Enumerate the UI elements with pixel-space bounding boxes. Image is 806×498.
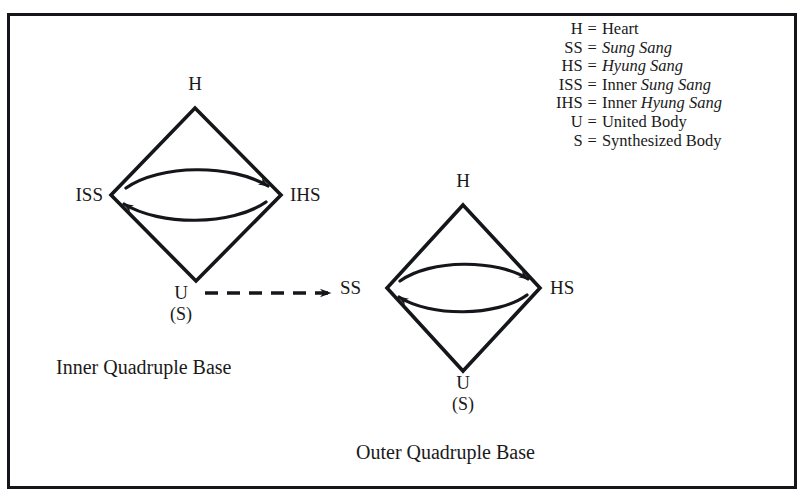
legend-definition: Sung Sang — [602, 39, 722, 58]
legend-table: H = Heart SS = Sung Sang HS = Hyung Sang… — [556, 20, 722, 150]
legend-abbr: S — [556, 132, 588, 151]
legend-definition-italic: Hyung Sang — [602, 56, 683, 75]
legend-definition-italic: Hyung Sang — [641, 93, 722, 112]
legend-row: U = United Body — [556, 113, 722, 132]
outer-node-top-h: H — [456, 171, 470, 191]
legend-equals: = — [588, 76, 602, 95]
legend-row: H = Heart — [556, 20, 722, 39]
legend-definition-italic: Sung Sang — [602, 38, 672, 57]
legend-definition: United Body — [602, 113, 722, 132]
legend-abbr: HS — [556, 57, 588, 76]
outer-node-left-ss: SS — [340, 278, 361, 298]
outer-node-bottom-sub-s: (S) — [452, 395, 474, 414]
legend-definition: Inner Sung Sang — [602, 76, 722, 95]
legend-row: ISS = Inner Sung Sang — [556, 76, 722, 95]
legend-definition-plain: Inner — [602, 75, 641, 94]
inner-node-top-h: H — [188, 74, 202, 94]
outer-node-right-hs: HS — [550, 278, 574, 298]
legend-equals: = — [588, 132, 602, 151]
legend-definition-italic: Sung Sang — [641, 75, 711, 94]
inner-node-right-ihs: IHS — [290, 185, 321, 205]
legend-definition-plain: Inner — [602, 93, 641, 112]
legend-abbr: ISS — [556, 76, 588, 95]
legend-equals: = — [588, 113, 602, 132]
legend-abbr: U — [556, 113, 588, 132]
legend-definition-plain: United Body — [602, 112, 687, 131]
legend-abbr: SS — [556, 39, 588, 58]
legend-equals: = — [588, 57, 602, 76]
inner-base-caption: Inner Quadruple Base — [56, 356, 232, 378]
legend-definition: Synthesized Body — [602, 132, 722, 151]
legend-equals: = — [588, 20, 602, 39]
legend-row: IHS = Inner Hyung Sang — [556, 94, 722, 113]
outer-node-bottom-u: U — [456, 373, 470, 393]
legend-definition: Inner Hyung Sang — [602, 94, 722, 113]
legend-definition: Heart — [602, 20, 722, 39]
legend: H = Heart SS = Sung Sang HS = Hyung Sang… — [556, 20, 722, 150]
legend-definition: Hyung Sang — [602, 57, 722, 76]
legend-row: HS = Hyung Sang — [556, 57, 722, 76]
legend-definition-plain: Synthesized Body — [602, 131, 722, 150]
inner-quadruple-base-diamond — [111, 108, 281, 281]
inner-node-bottom-u: U — [174, 283, 188, 303]
legend-row: S = Synthesized Body — [556, 132, 722, 151]
legend-definition-plain: Heart — [602, 19, 639, 38]
figure-canvas: SS ===== --> H = Heart SS = — [0, 0, 806, 498]
inner-node-bottom-sub-s: (S) — [170, 305, 192, 324]
outer-base-caption: Outer Quadruple Base — [356, 441, 535, 463]
legend-abbr: IHS — [556, 94, 588, 113]
legend-abbr: H — [556, 20, 588, 39]
legend-row: SS = Sung Sang — [556, 39, 722, 58]
legend-equals: = — [588, 94, 602, 113]
inner-node-left-iss: ISS — [76, 185, 103, 205]
outer-quadruple-base-diamond — [387, 205, 540, 371]
legend-equals: = — [588, 39, 602, 58]
